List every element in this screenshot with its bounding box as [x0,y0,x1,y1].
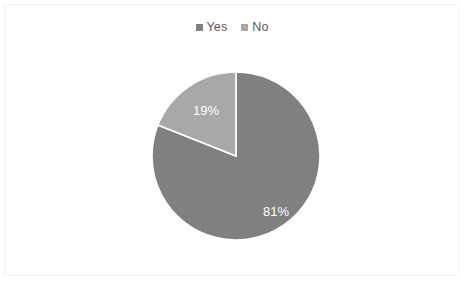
pie-svg: 81%19% [152,72,320,240]
square-marker-icon [241,24,248,31]
legend-item-label: No [252,21,268,34]
pie-chart: 81%19% [152,72,320,240]
chart-legend: Yes No [0,21,464,34]
pie-slice-data-label: 81% [263,204,289,219]
legend-item-no[interactable]: No [241,21,268,34]
chart-canvas: Yes No 81%19% [0,0,464,281]
square-marker-icon [196,24,203,31]
pie-slice-data-label: 19% [193,103,219,118]
legend-item-yes[interactable]: Yes [196,21,228,34]
pie-slice-group [152,72,320,240]
legend-item-label: Yes [207,21,228,34]
